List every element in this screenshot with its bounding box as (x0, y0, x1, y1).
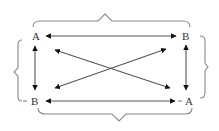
right-brace (200, 36, 208, 98)
top-brace (33, 14, 190, 27)
node-bottom-left-label: B (31, 95, 38, 107)
node-bottom-right-label: A (185, 95, 193, 107)
node-top-right-label: B (182, 30, 189, 42)
diagonal-arrow-tr-bl (55, 49, 166, 88)
bottom-brace (38, 108, 192, 121)
diagram-canvas: A B B A (0, 0, 219, 131)
left-brace (14, 40, 22, 101)
node-top-left-label: A (32, 30, 40, 42)
